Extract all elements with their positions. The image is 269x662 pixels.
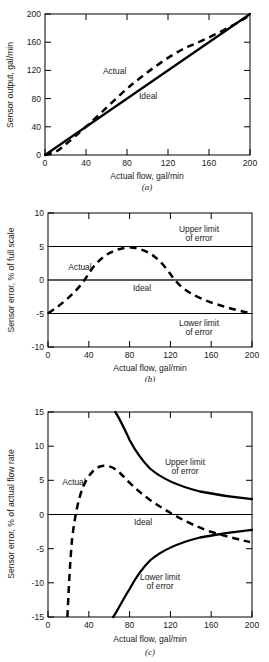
y-ticks-right-a — [244, 42, 250, 127]
y-ticklabel-a-0: 0 — [36, 150, 41, 160]
series-c-upper-limit — [115, 412, 252, 499]
x-axis-title-b: Actual flow, gal/min — [113, 363, 187, 373]
x-ticklabel-a-0: 0 — [43, 158, 48, 168]
panel-caption-b: (b) — [145, 374, 156, 382]
x-ticklabel-c-4: 160 — [204, 620, 219, 630]
annot-a-actual: Actual — [103, 66, 126, 76]
x-ticklabel-b-0: 0 — [46, 350, 51, 360]
annot-c-actual: Actual — [62, 477, 85, 487]
y-ticklabel-c-0: 0 — [39, 510, 44, 520]
annot-c-ideal: Ideal — [134, 517, 152, 527]
y-ticklabel-b-0: 0 — [39, 275, 44, 285]
x-axis-title-a: Actual flow, gal/min — [110, 171, 184, 181]
series-a-ideal — [45, 14, 250, 155]
x-ticklabel-a-3: 120 — [161, 158, 176, 168]
y-ticklabel-c-15: 15 — [34, 407, 44, 417]
y-ticklabel-a-2: 80 — [31, 94, 41, 104]
x-ticklabel-b-3: 120 — [163, 350, 178, 360]
x-ticklabel-b-2: 80 — [125, 350, 135, 360]
x-ticklabel-c-3: 120 — [163, 620, 178, 630]
series-c-lower-limit — [113, 530, 252, 617]
y-ticklabel-c-5: 5 — [39, 475, 44, 485]
y-ticklabel-a-5: 200 — [27, 9, 42, 19]
x-ticks-a — [45, 149, 250, 155]
annot-b-ideal: Ideal — [133, 283, 151, 293]
y-axis-title-b: Sensor error, % of full scale — [6, 227, 16, 332]
y-ticklabel-b-m10: -10 — [32, 342, 45, 352]
x-ticklabel-b-5: 200 — [245, 350, 260, 360]
annot-b-lower-limit-2: of error — [186, 327, 213, 337]
series-c-actual — [67, 466, 250, 617]
x-ticklabel-c-1: 40 — [84, 620, 94, 630]
x-ticks-top-b — [89, 213, 211, 219]
x-ticklabel-c-5: 200 — [245, 620, 260, 630]
chart-panel-c: Upper limit of error Lower limit of erro… — [0, 392, 269, 662]
x-ticks-b — [48, 341, 252, 347]
x-ticklabel-b-1: 40 — [84, 350, 94, 360]
y-ticks-a — [45, 14, 51, 155]
y-axis-title-a: Sensor output, gal/min — [5, 42, 15, 128]
panel-caption-c: (c) — [145, 647, 155, 657]
annot-b-upper-limit-2: of error — [186, 233, 213, 243]
y-ticklabel-c-10: 10 — [34, 441, 44, 451]
y-ticklabel-c-m10: -10 — [32, 578, 45, 588]
x-ticklabel-c-2: 80 — [125, 620, 135, 630]
x-ticklabel-a-5: 200 — [243, 158, 258, 168]
chart-a-svg: Actual Ideal 0 40 80 120 160 200 0 40 80… — [0, 0, 269, 192]
y-ticklabel-c-m5: -5 — [36, 544, 44, 554]
y-ticklabel-b-m5: -5 — [36, 309, 44, 319]
y-ticklabel-b-5: 5 — [39, 242, 44, 252]
x-ticklabel-b-4: 160 — [204, 350, 219, 360]
chart-panel-a: Actual Ideal 0 40 80 120 160 200 0 40 80… — [0, 0, 269, 192]
x-ticklabel-a-4: 160 — [202, 158, 217, 168]
panel-caption-a: (a) — [142, 182, 153, 192]
x-ticklabel-a-2: 80 — [122, 158, 132, 168]
chart-b-svg: Upper limit of error Lower limit of erro… — [0, 196, 269, 382]
y-ticklabel-a-4: 160 — [27, 37, 42, 47]
annot-c-lower-limit-2: of error — [147, 581, 174, 591]
y-ticklabel-a-3: 120 — [27, 65, 42, 75]
annot-a-ideal: Ideal — [139, 91, 157, 101]
figure-sensor-error-curves: Actual Ideal 0 40 80 120 160 200 0 40 80… — [0, 0, 269, 662]
x-axis-title-c: Actual flow, gal/min — [113, 634, 187, 644]
y-axis-title-c: Sensor error, % of actual flow rate — [6, 449, 16, 579]
y-ticklabel-a-1: 40 — [31, 122, 41, 132]
x-ticks-top-c — [89, 412, 211, 418]
y-ticklabel-b-10: 10 — [34, 208, 44, 218]
chart-c-svg: Upper limit of error Lower limit of erro… — [0, 392, 269, 662]
x-ticklabel-c-0: 0 — [46, 620, 51, 630]
x-ticks-c — [48, 611, 252, 617]
x-ticks-top-a — [86, 14, 209, 20]
x-ticklabel-a-1: 40 — [81, 158, 91, 168]
chart-panel-b: Upper limit of error Lower limit of erro… — [0, 196, 269, 382]
annot-c-upper-limit-2: of error — [172, 466, 199, 476]
annot-b-actual: Actual — [68, 262, 91, 272]
y-ticklabel-c-m15: -15 — [32, 612, 45, 622]
